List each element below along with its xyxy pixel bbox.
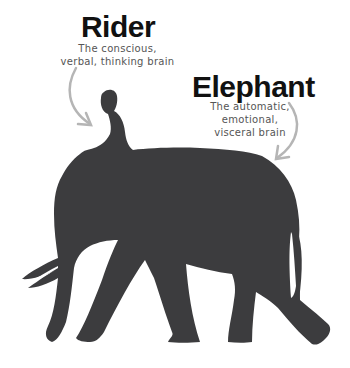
rider-description-line-1: The conscious, (45, 42, 190, 55)
rider-title: Rider (68, 10, 168, 44)
rider-description: The conscious, verbal, thinking brain (45, 42, 190, 68)
elephant-description-line-2: emotional, (200, 113, 300, 126)
elephant-description-line-3: visceral brain (200, 126, 300, 139)
elephant-description-line-1: The automatic, (200, 100, 300, 113)
elephant-description: The automatic, emotional, visceral brain (200, 100, 300, 139)
rider-description-line-2: verbal, thinking brain (45, 55, 190, 68)
rider-arrow-icon (70, 68, 91, 125)
elephant-title: Elephant (192, 70, 312, 104)
rider-elephant-diagram: Rider The conscious, verbal, thinking br… (0, 0, 350, 368)
